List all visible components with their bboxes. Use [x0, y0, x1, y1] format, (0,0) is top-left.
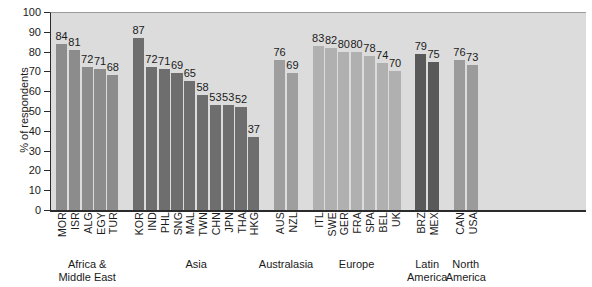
bar — [428, 62, 439, 211]
bar — [197, 95, 208, 210]
bar — [82, 67, 93, 210]
group-label: Asia — [185, 258, 206, 271]
category-label: BRZ — [415, 212, 427, 234]
category-label: HKG — [248, 212, 260, 235]
category-label: SWE — [326, 212, 338, 237]
category-label: ISR — [69, 212, 81, 230]
bar-value-label: 81 — [68, 37, 80, 48]
y-axis-ticks: 1009080706050403020100 — [0, 12, 50, 210]
bar-value-label: 76 — [273, 47, 285, 58]
bar — [389, 71, 400, 210]
category-label: ALG — [82, 212, 94, 234]
bar — [133, 38, 144, 210]
bar-value-label: 69 — [171, 60, 183, 71]
bar-value-label: 73 — [466, 52, 478, 63]
bar-value-label: 84 — [55, 31, 67, 42]
bar — [159, 69, 170, 210]
bar — [69, 50, 80, 210]
bar — [171, 73, 182, 210]
bar-value-label: 71 — [94, 56, 106, 67]
group-label-line: North — [452, 258, 479, 270]
category-label: JPN — [223, 212, 235, 232]
category-label: KOR — [133, 212, 145, 235]
bar-value-label: 82 — [325, 35, 337, 46]
group-label: NorthAmerica — [446, 258, 486, 284]
category-label: CAN — [454, 212, 466, 235]
bar-value-label: 80 — [338, 39, 350, 50]
bar-value-label: 87 — [132, 25, 144, 36]
group-label-line: Asia — [185, 258, 206, 270]
y-tick-label: 30 — [29, 145, 41, 156]
bar — [454, 60, 465, 210]
bar — [325, 48, 336, 210]
bar — [415, 54, 426, 210]
bar — [223, 105, 234, 210]
bar — [287, 73, 298, 210]
bar — [210, 105, 221, 210]
y-tick-label: 40 — [29, 125, 41, 136]
category-label: MOR — [56, 212, 68, 237]
category-label: ITL — [313, 212, 325, 228]
y-tick-label: 100 — [23, 7, 41, 18]
group-labels: Africa &Middle EastAsiaAustralasiaEurope… — [50, 258, 586, 286]
group-label: LatinAmerica — [407, 258, 447, 284]
category-label: PHL — [159, 212, 171, 233]
category-label: BEL — [377, 212, 389, 232]
bar-value-label: 53 — [209, 92, 221, 103]
bar-value-label: 74 — [376, 50, 388, 61]
y-tick-label: 80 — [29, 46, 41, 57]
bar — [94, 69, 105, 210]
y-tick-label: 60 — [29, 86, 41, 97]
bar-value-label: 52 — [235, 94, 247, 105]
category-labels: MORISRALGEGYTURKORINDPHLSNGMALTWNCHNJPNT… — [50, 212, 586, 256]
y-tick-label: 70 — [29, 66, 41, 77]
bar-value-label: 75 — [427, 49, 439, 60]
category-label: EGY — [95, 212, 107, 235]
group-label-line: Australasia — [259, 258, 313, 270]
bar — [364, 56, 375, 210]
bar-value-label: 80 — [350, 39, 362, 50]
bar — [248, 137, 259, 210]
bar — [235, 107, 246, 210]
bars-layer: 8481727168877271696558535352377669838280… — [50, 12, 586, 210]
bar — [56, 44, 67, 210]
bar-value-label: 65 — [184, 68, 196, 79]
group-label-line: Africa & — [68, 258, 107, 270]
bar-value-label: 78 — [363, 43, 375, 54]
bar — [274, 60, 285, 210]
y-tick-label: 10 — [29, 185, 41, 196]
bar — [351, 52, 362, 210]
bar — [184, 81, 195, 210]
group-label-line: Middle East — [58, 271, 115, 283]
category-label: CHN — [210, 212, 222, 235]
category-label: MEX — [428, 212, 440, 235]
category-label: UK — [390, 212, 402, 227]
bar-value-label: 58 — [196, 82, 208, 93]
category-label: TUR — [107, 212, 119, 234]
group-label: Australasia — [259, 258, 313, 271]
y-tick-label: 90 — [29, 26, 41, 37]
category-label: SNG — [172, 212, 184, 235]
category-label: MAL — [184, 212, 196, 234]
group-label-line: Latin — [415, 258, 439, 270]
bar-chart: % of respondents 1009080706050403020100 … — [0, 0, 592, 287]
category-label: IND — [146, 212, 158, 231]
bar-value-label: 72 — [145, 54, 157, 65]
bar — [313, 46, 324, 210]
bar-value-label: 76 — [453, 47, 465, 58]
group-label-line: America — [407, 271, 447, 283]
bar-value-label: 71 — [158, 56, 170, 67]
bar — [146, 67, 157, 210]
bar-value-label: 53 — [222, 92, 234, 103]
bar — [467, 65, 478, 210]
bar-value-label: 37 — [248, 124, 260, 135]
bar — [338, 52, 349, 210]
category-label: GER — [338, 212, 350, 235]
group-label: Africa &Middle East — [58, 258, 115, 284]
bar-value-label: 68 — [107, 62, 119, 73]
group-label: Europe — [339, 258, 374, 271]
category-label: USA — [467, 212, 479, 234]
bar-value-label: 72 — [81, 54, 93, 65]
bar-value-label: 79 — [415, 41, 427, 52]
group-label-line: Europe — [339, 258, 374, 270]
